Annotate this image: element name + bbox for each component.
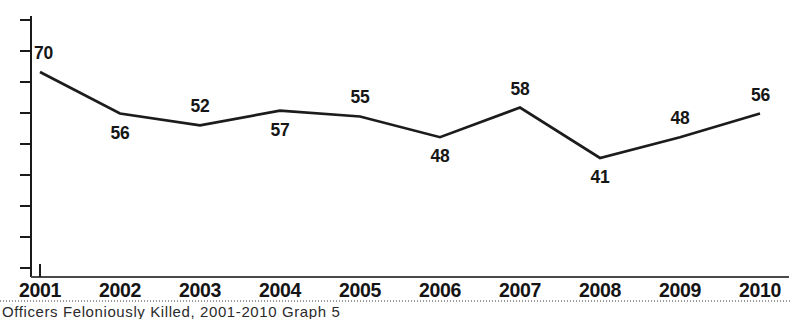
- x-axis-tick-label: 2001: [19, 279, 62, 301]
- data-point-label: 56: [110, 123, 130, 143]
- y-axis-ticks: [20, 20, 31, 268]
- x-axis-tick-label: 2002: [99, 279, 142, 301]
- data-point-label: 70: [34, 43, 54, 63]
- data-point-label: 48: [670, 108, 690, 128]
- y-axis: [20, 16, 31, 277]
- x-axis-tick-label: 2008: [579, 279, 622, 301]
- caption-strip: Officers Feloniously Killed, 2001-2010 G…: [0, 300, 790, 319]
- x-axis-tick-label: 2010: [739, 279, 782, 301]
- x-axis-tick-label: 2004: [259, 279, 302, 301]
- caption-text: Officers Feloniously Killed, 2001-2010 G…: [2, 303, 340, 319]
- data-point-label: 58: [510, 79, 530, 99]
- data-point-label: 48: [430, 146, 450, 166]
- x-axis-tick-labels: 2001200220032004200520062007200820092010: [19, 279, 782, 301]
- data-value-labels: 70565257554858414856: [34, 43, 770, 187]
- data-point-label: 56: [751, 85, 771, 105]
- x-axis-tick-label: 2007: [499, 279, 541, 301]
- data-point-label: 55: [350, 87, 370, 107]
- data-point-label: 41: [590, 167, 610, 187]
- data-point-label: 57: [270, 120, 289, 140]
- x-axis-tick-label: 2005: [339, 279, 382, 301]
- x-axis-tick-label: 2003: [179, 279, 222, 301]
- x-axis-tick-label: 2006: [419, 279, 462, 301]
- chart-page: 70565257554858414856 2001200220032004200…: [0, 0, 790, 319]
- data-point-label: 52: [190, 96, 210, 116]
- caption-divider: [0, 300, 790, 302]
- line-chart: 70565257554858414856 2001200220032004200…: [0, 0, 790, 319]
- data-line-series: [40, 72, 760, 158]
- x-axis-tick-label: 2009: [659, 279, 702, 301]
- x-axis: [31, 264, 789, 277]
